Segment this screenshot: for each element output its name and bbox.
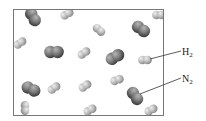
n2-molecule: [129, 18, 152, 39]
h2-molecule: [109, 74, 125, 87]
leader-line-h2: [150, 51, 181, 59]
h2-molecule: [77, 79, 93, 94]
n2-molecule: [19, 79, 42, 99]
h2-molecule: [46, 81, 62, 96]
leader-line-n2: [140, 78, 181, 94]
h2-molecule: [59, 7, 75, 21]
label-h2: H2: [182, 47, 193, 59]
h2-molecule: [91, 22, 107, 37]
h2-molecule: [12, 36, 28, 51]
h2-molecule: [21, 101, 30, 115]
n2-molecule: [23, 5, 44, 28]
h2-molecule: [138, 56, 152, 65]
label-n2: N2: [182, 74, 193, 86]
n2-molecule: [124, 84, 145, 107]
molecules-layer: [12, 5, 166, 117]
diagram-canvas: [0, 0, 206, 121]
molecule-diagram: H2 N2: [0, 0, 206, 121]
label-h2-subscript: 2: [189, 51, 193, 59]
label-n2-subscript: 2: [189, 78, 193, 86]
h2-molecule: [76, 46, 92, 61]
n2-molecule: [103, 47, 126, 68]
n2-molecule: [44, 46, 64, 58]
